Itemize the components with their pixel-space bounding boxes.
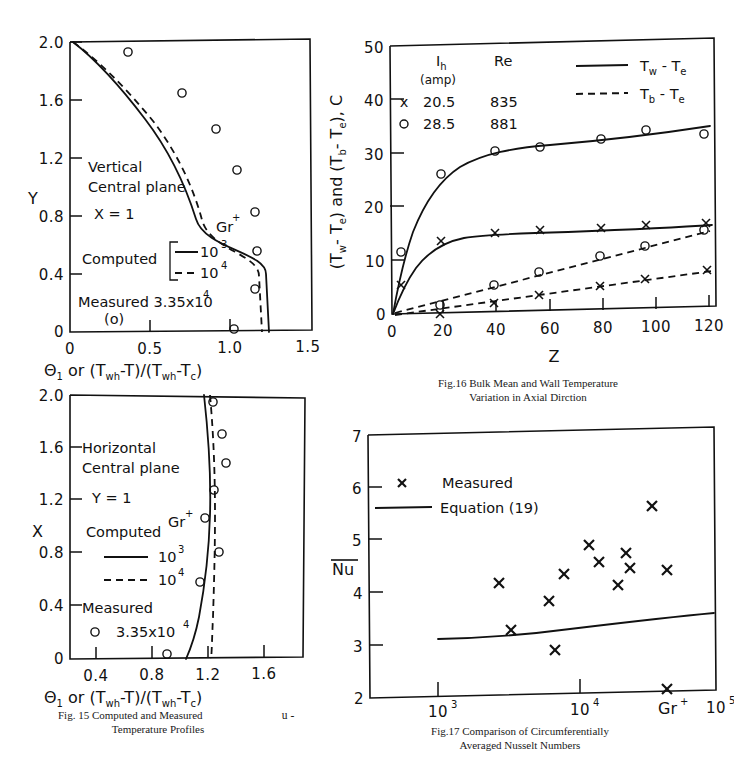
- data-point-x: [550, 645, 560, 655]
- legend-table: Ih Re (amp) x 20.5 835 28.5 881: [400, 53, 518, 132]
- x-tick-exponent: 3: [451, 699, 457, 710]
- y-axis-title-p3: ) and (T: [327, 155, 346, 218]
- chart-vertical-central-plane: 2.0 1.6 1.2 0.8 0.4 0 Y 0 0.5 1.0 1.5: [0, 14, 340, 384]
- legend-gr3: 10 3: [200, 239, 227, 260]
- legend-re-value: 881: [490, 116, 518, 132]
- data-point-circle: [124, 48, 132, 56]
- chart-horizontal-central-plane: 2.0 1.6 1.2 0.8 0.4 0 X 0.4 0.8 1.2 1.6: [0, 385, 340, 715]
- annotation-measured-exp: 4: [203, 289, 209, 300]
- y-tick-label: 3: [353, 638, 363, 656]
- fig15-caption-extra: u -: [282, 709, 295, 721]
- x-tick-label: 0.4: [83, 667, 108, 685]
- x-axis-title: Z: [549, 347, 560, 366]
- fig16-caption-line2: Variation in Axial Dirction: [469, 391, 587, 403]
- legend-re-value: 835: [490, 94, 518, 110]
- data-point-x: [544, 596, 554, 606]
- annotation-vertical: Vertical: [88, 159, 142, 175]
- legend-row: 28.5 881: [400, 116, 518, 132]
- y-axis-title-p5: ), C: [327, 95, 346, 123]
- annotation-horizontal: Horizontal: [82, 440, 156, 456]
- data-point-circle: [230, 325, 238, 333]
- measured-points: [494, 501, 672, 694]
- x-axis-title: Gr +: [658, 696, 688, 718]
- data-point-x: [703, 266, 711, 274]
- data-point-circle: [212, 125, 220, 133]
- y-axis-title-text: Nu: [332, 560, 354, 579]
- x-axis-tick-labels: 0 20 40 60 80 100 120: [387, 317, 724, 341]
- fig17-caption-line1: Fig.17 Comparison of Circumferentially: [431, 725, 609, 737]
- annotation-measured-base: 3.35x10: [116, 624, 175, 640]
- x-axis-title-end1: -T: [176, 688, 190, 707]
- x-tick-label: 1.6: [251, 665, 276, 683]
- y-tick-label: 0.4: [39, 597, 64, 615]
- y-axis-ticks: [390, 99, 405, 260]
- y-tick-label: 2.0: [39, 387, 64, 405]
- annotation-gr-superscript: +: [185, 508, 193, 519]
- annotation-measured-text: Measured 3.35x10: [78, 294, 213, 310]
- y-axis-ticks: [70, 447, 82, 605]
- legend-gr4-exp: 4: [221, 260, 227, 271]
- x-tick-base: 10: [706, 699, 726, 717]
- x-axis-title-mid: -T)/(T: [120, 361, 162, 380]
- annotation-x-equals-1: X = 1: [94, 206, 135, 222]
- y-axis-title-p1: (T: [327, 253, 346, 269]
- x-axis-ticks: [443, 295, 709, 313]
- figure-sheet: 2.0 1.6 1.2 0.8 0.4 0 Y 0 0.5 1.0 1.5: [0, 0, 734, 769]
- data-point-circle: [233, 166, 241, 174]
- x-axis-title-theta: Θ: [44, 361, 57, 380]
- x-axis-title-or: or (T: [63, 688, 106, 707]
- data-point-x: [494, 578, 504, 588]
- x-axis-title-end1: -T: [176, 361, 190, 380]
- data-point-circle: [196, 578, 204, 586]
- y-tick-label: 0.8: [39, 208, 64, 226]
- data-point-circle: [596, 252, 604, 260]
- y-tick-label: 0.4: [39, 266, 64, 284]
- x-axis-title-mid: -T)/(T: [120, 688, 162, 707]
- annotation-gr-plus: Gr +: [168, 508, 193, 530]
- y-axis-tick-labels: 50 40 30 20 10 0: [364, 39, 386, 324]
- x-tick-label: 10 3: [428, 699, 457, 721]
- x-tick-label: 1.2: [195, 666, 220, 684]
- svg-text:(Tw- Te) and (Tb- Te), C: (Tw- Te) and (Tb- Te), C: [327, 95, 348, 269]
- fig16-caption: Fig.16 Bulk Mean and Wall Temperature Va…: [330, 374, 734, 408]
- y-axis-title: X: [32, 522, 43, 541]
- x-axis-title-end2: ): [196, 688, 202, 707]
- y-tick-label: 5: [352, 532, 362, 550]
- legend-current-value: 20.5: [423, 94, 455, 110]
- legend-marker-circle: [400, 120, 408, 128]
- x-axis-tick-labels: 0.4 0.8 1.2 1.6: [83, 665, 276, 685]
- annotation-measured: Measured: [82, 600, 153, 616]
- y-axis-title-p4: - T: [327, 128, 346, 149]
- y-tick-label: 6: [352, 480, 362, 498]
- y-tick-label: 0.8: [39, 544, 64, 562]
- x-tick-label: 80: [593, 319, 613, 337]
- y-tick-label: 0: [376, 306, 386, 324]
- legend-label-equation: Equation (19): [440, 500, 539, 516]
- annotation-gr: Gr: [216, 219, 233, 235]
- legend-gr4-base: 10: [158, 572, 176, 588]
- annotation-measured-marker: [91, 628, 99, 636]
- fig15-caption-line2: Temperature Profiles: [112, 723, 204, 735]
- data-point-circle: [163, 650, 171, 658]
- x-tick-label: 0.8: [139, 666, 164, 684]
- annotation-measured: Measured 3.35x10 4 (o): [78, 289, 213, 327]
- data-point-circle: [253, 247, 261, 255]
- nusselt-numbers-svg: 7 6 5 4 3 2 Nu 10 3: [310, 405, 734, 725]
- legend-units: (amp): [420, 73, 456, 87]
- y-tick-label: 1.2: [39, 150, 64, 168]
- y-tick-label: 10: [365, 253, 385, 271]
- fig15-caption: Fig. 15 Computed and Measured u - Temper…: [0, 706, 340, 746]
- legend-gr4: 10 4: [158, 567, 184, 588]
- data-point-x: [594, 557, 604, 567]
- legend-gr3-base: 10: [200, 244, 218, 260]
- x-axis-title-wh1: wh: [106, 371, 121, 382]
- vertical-central-plane-svg: 2.0 1.6 1.2 0.8 0.4 0 Y 0 0.5 1.0 1.5: [0, 14, 340, 384]
- x-tick-label: 1.0: [217, 339, 242, 357]
- x-tick-label: 10 4: [570, 697, 599, 719]
- legend-current-subscript: h: [440, 61, 446, 72]
- x-axis-title-or: or (T: [63, 361, 106, 380]
- data-point-circle: [222, 459, 230, 467]
- legend-gr3-exp: 3: [221, 239, 227, 250]
- data-point-x: [436, 310, 444, 318]
- legend-label-tb-te: Tb - Te: [639, 86, 685, 105]
